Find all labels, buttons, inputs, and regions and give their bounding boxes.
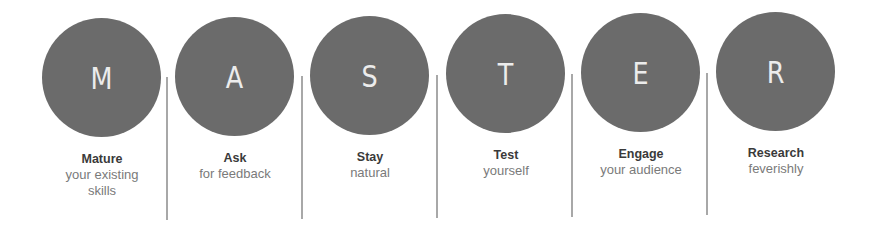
step-subtitle: for feedback: [180, 166, 290, 182]
step-title: Ask: [160, 150, 310, 166]
step-title: Test: [431, 147, 581, 163]
step-title: Engage: [566, 146, 716, 162]
step-subtitle: feverishly: [721, 161, 831, 177]
step-title: Mature: [27, 151, 177, 167]
letter-circle: E: [581, 13, 700, 132]
step-caption: Ask for feedback: [160, 150, 310, 182]
letter-circle: M: [42, 18, 161, 137]
letter-circle: S: [310, 16, 429, 135]
letter-circle: T: [446, 14, 565, 133]
step-letter: T: [455, 58, 556, 92]
step-title: Research: [701, 145, 851, 161]
letter-circle: R: [716, 12, 835, 131]
step-letter: M: [51, 62, 152, 96]
divider: [706, 73, 708, 215]
step-subtitle: yourself: [451, 163, 561, 179]
step-caption: Stay natural: [295, 149, 445, 181]
step-letter: S: [319, 60, 420, 94]
step-letter: R: [725, 56, 826, 90]
step-title: Stay: [295, 149, 445, 165]
step-caption: Mature your existing skills: [27, 151, 177, 199]
divider: [301, 76, 303, 219]
step-caption: Engage your audience: [566, 146, 716, 178]
step-subtitle: your audience: [576, 162, 706, 178]
step-subtitle: natural: [315, 165, 425, 181]
step-subtitle: your existing skills: [57, 167, 147, 199]
step-caption: Research feverishly: [701, 145, 851, 177]
step-letter: A: [184, 61, 285, 95]
letter-circle: A: [175, 17, 294, 136]
step-caption: Test yourself: [431, 147, 581, 179]
divider: [166, 77, 168, 220]
step-letter: E: [590, 57, 691, 91]
